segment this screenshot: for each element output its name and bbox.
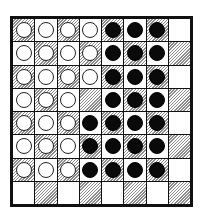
board-square-r0-c2[interactable] xyxy=(58,19,79,41)
board-square-r2-c1[interactable] xyxy=(35,66,56,88)
black-disc-icon xyxy=(149,69,165,85)
board-square-r0-c1[interactable] xyxy=(35,19,56,41)
board-square-r2-c4[interactable] xyxy=(102,66,123,88)
board-square-r1-c2[interactable] xyxy=(58,42,79,64)
board-square-r0-c7[interactable] xyxy=(169,19,190,41)
board-square-r2-c7[interactable] xyxy=(169,66,190,88)
board-square-r5-c2[interactable] xyxy=(58,135,79,157)
board-square-r4-c5[interactable] xyxy=(124,112,145,134)
white-disc-icon xyxy=(60,92,76,108)
board-square-r3-c1[interactable] xyxy=(35,89,56,111)
board-square-r4-c4[interactable] xyxy=(102,112,123,134)
board-square-r2-c5[interactable] xyxy=(124,66,145,88)
board-square-r1-c7[interactable] xyxy=(169,42,190,64)
black-disc-icon xyxy=(82,138,98,154)
board-square-r7-c1[interactable] xyxy=(35,182,56,204)
board-square-r5-c4[interactable] xyxy=(102,135,123,157)
black-disc-icon xyxy=(82,162,98,178)
board-square-r7-c4[interactable] xyxy=(102,182,123,204)
board-square-r6-c0[interactable] xyxy=(13,159,34,181)
white-disc-icon xyxy=(38,138,54,154)
black-disc-icon xyxy=(127,115,143,131)
board-square-r7-c5[interactable] xyxy=(124,182,145,204)
board-square-r1-c0[interactable] xyxy=(13,42,34,64)
black-disc-icon xyxy=(127,22,143,38)
board-square-r4-c1[interactable] xyxy=(35,112,56,134)
board-square-r3-c2[interactable] xyxy=(58,89,79,111)
board-square-r1-c6[interactable] xyxy=(147,42,168,64)
board-square-r1-c4[interactable] xyxy=(102,42,123,64)
black-disc-icon xyxy=(105,115,121,131)
board-square-r5-c7[interactable] xyxy=(169,135,190,157)
board-square-r1-c1[interactable] xyxy=(35,42,56,64)
black-disc-icon xyxy=(82,115,98,131)
board-square-r2-c0[interactable] xyxy=(13,66,34,88)
board-square-r5-c5[interactable] xyxy=(124,135,145,157)
white-disc-icon xyxy=(16,115,32,131)
board-square-r5-c0[interactable] xyxy=(13,135,34,157)
white-disc-icon xyxy=(16,69,32,85)
board-square-r1-c3[interactable] xyxy=(80,42,101,64)
black-disc-icon xyxy=(127,45,143,61)
white-disc-icon xyxy=(16,92,32,108)
board-square-r5-c6[interactable] xyxy=(147,135,168,157)
white-disc-icon xyxy=(38,92,54,108)
black-disc-icon xyxy=(149,115,165,131)
board-square-r4-c3[interactable] xyxy=(80,112,101,134)
board-square-r7-c0[interactable] xyxy=(13,182,34,204)
white-disc-icon xyxy=(38,45,54,61)
board-square-r7-c7[interactable] xyxy=(169,182,190,204)
black-disc-icon xyxy=(105,22,121,38)
board-square-r2-c3[interactable] xyxy=(80,66,101,88)
board-square-r2-c2[interactable] xyxy=(58,66,79,88)
white-disc-icon xyxy=(38,162,54,178)
white-disc-icon xyxy=(82,69,98,85)
black-disc-icon xyxy=(105,162,121,178)
board-square-r3-c3[interactable] xyxy=(80,89,101,111)
white-disc-icon xyxy=(16,45,32,61)
board-square-r0-c0[interactable] xyxy=(13,19,34,41)
board-square-r6-c6[interactable] xyxy=(147,159,168,181)
board-square-r0-c3[interactable] xyxy=(80,19,101,41)
white-disc-icon xyxy=(16,162,32,178)
white-disc-icon xyxy=(60,115,76,131)
black-disc-icon xyxy=(149,92,165,108)
white-disc-icon xyxy=(60,22,76,38)
white-disc-icon xyxy=(38,22,54,38)
board-square-r3-c0[interactable] xyxy=(13,89,34,111)
board-square-r6-c1[interactable] xyxy=(35,159,56,181)
board-square-r4-c0[interactable] xyxy=(13,112,34,134)
board-square-r7-c6[interactable] xyxy=(147,182,168,204)
board-square-r5-c3[interactable] xyxy=(80,135,101,157)
black-disc-icon xyxy=(149,45,165,61)
black-disc-icon xyxy=(127,162,143,178)
board-square-r5-c1[interactable] xyxy=(35,135,56,157)
white-disc-icon xyxy=(60,45,76,61)
board-square-r3-c6[interactable] xyxy=(147,89,168,111)
board-square-r4-c7[interactable] xyxy=(169,112,190,134)
black-disc-icon xyxy=(149,162,165,178)
board-square-r6-c5[interactable] xyxy=(124,159,145,181)
board-square-r4-c2[interactable] xyxy=(58,112,79,134)
board-square-r6-c2[interactable] xyxy=(58,159,79,181)
white-disc-icon xyxy=(60,162,76,178)
board-square-r3-c5[interactable] xyxy=(124,89,145,111)
board-square-r3-c4[interactable] xyxy=(102,89,123,111)
board-square-r3-c7[interactable] xyxy=(169,89,190,111)
board-square-r7-c3[interactable] xyxy=(80,182,101,204)
board-square-r0-c4[interactable] xyxy=(102,19,123,41)
board-square-r1-c5[interactable] xyxy=(124,42,145,64)
board-square-r6-c4[interactable] xyxy=(102,159,123,181)
board-square-r0-c5[interactable] xyxy=(124,19,145,41)
game-board xyxy=(10,16,193,207)
board-square-r2-c6[interactable] xyxy=(147,66,168,88)
white-disc-icon xyxy=(16,138,32,154)
board-square-r7-c2[interactable] xyxy=(58,182,79,204)
board-square-r0-c6[interactable] xyxy=(147,19,168,41)
board-square-r4-c6[interactable] xyxy=(147,112,168,134)
black-disc-icon xyxy=(149,22,165,38)
board-square-r6-c3[interactable] xyxy=(80,159,101,181)
board-square-r6-c7[interactable] xyxy=(169,159,190,181)
black-disc-icon xyxy=(105,92,121,108)
black-disc-icon xyxy=(105,45,121,61)
